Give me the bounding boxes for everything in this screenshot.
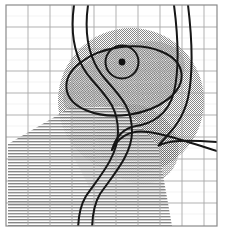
peak-center-dot [119,59,126,66]
contour-plot-canvas [0,0,225,232]
contour-plot-figure [0,0,225,232]
